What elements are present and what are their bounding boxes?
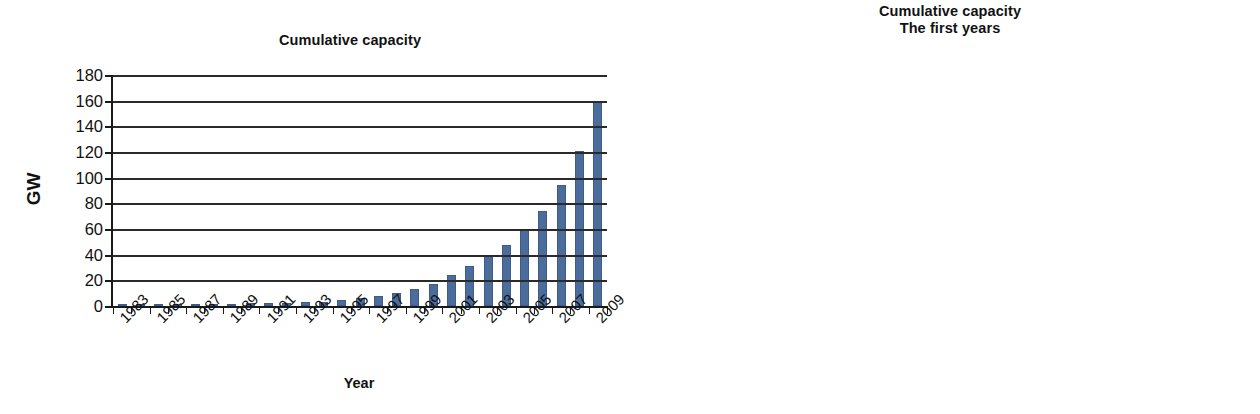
left-chart-title: Cumulative capacity [0, 32, 630, 49]
y-axis-tick [105, 178, 112, 180]
gridline [113, 178, 607, 180]
y-axis-tick-label: 0 [47, 297, 103, 316]
x-axis-tick [369, 306, 370, 314]
gridline [113, 203, 607, 205]
y-axis-tick-label: 20 [47, 271, 103, 290]
x-axis-tick [442, 306, 443, 314]
x-axis-tick [552, 306, 553, 314]
x-axis-tick [186, 306, 187, 314]
y-axis-tick-label: 100 [47, 168, 103, 187]
gridline [113, 255, 607, 257]
x-axis-tick [150, 306, 151, 314]
left-y-axis-title: GW [23, 159, 45, 219]
bar [520, 230, 529, 306]
figure-panel: Cumulative capacity GW 02040608010012014… [0, 0, 1260, 414]
y-axis-tick [105, 229, 112, 231]
x-axis-tick [406, 306, 407, 314]
right-chart-title-line2: The first years [670, 20, 1230, 37]
y-axis-tick [105, 126, 112, 128]
gridline [113, 75, 607, 77]
y-axis-tick-label: 60 [47, 220, 103, 239]
left-x-axis-title: Year [111, 375, 607, 391]
x-axis-tick [589, 306, 590, 314]
y-axis-tick-label: 160 [47, 91, 103, 110]
x-axis-tick [516, 306, 517, 314]
right-chart-title: Cumulative capacity The first years [630, 3, 1260, 37]
left-bar-series [113, 75, 607, 306]
y-axis-tick [105, 280, 112, 282]
x-axis-tick [479, 306, 480, 314]
y-axis-tick-label: 120 [47, 143, 103, 162]
x-axis-tick [223, 306, 224, 314]
y-axis-tick [105, 101, 112, 103]
chart-cumulative-capacity-first-years-mw: Cumulative capacity The first years MW 0… [630, 0, 1260, 414]
gridline [113, 152, 607, 154]
y-axis-tick-label: 140 [47, 117, 103, 136]
gridline [113, 126, 607, 128]
right-chart-title-line1: Cumulative capacity [670, 3, 1230, 20]
y-axis-tick [105, 255, 112, 257]
x-axis-tick [259, 306, 260, 314]
y-axis-tick-label: 80 [47, 194, 103, 213]
x-axis-tick [296, 306, 297, 314]
y-axis-tick [105, 75, 112, 77]
chart-cumulative-capacity-gw: Cumulative capacity GW 02040608010012014… [0, 0, 630, 414]
y-axis-tick [105, 203, 112, 205]
left-plot-area: 020406080100120140160180 [111, 75, 607, 308]
y-axis-tick [105, 152, 112, 154]
y-axis-tick-label: 40 [47, 245, 103, 264]
gridline [113, 280, 607, 282]
gridline [113, 229, 607, 231]
gridline [113, 101, 607, 103]
x-axis-tick [113, 306, 114, 314]
left-chart-title-line1: Cumulative capacity [279, 32, 421, 48]
x-axis-tick [333, 306, 334, 314]
y-axis-tick-label: 180 [47, 66, 103, 85]
y-axis-tick [105, 306, 112, 308]
